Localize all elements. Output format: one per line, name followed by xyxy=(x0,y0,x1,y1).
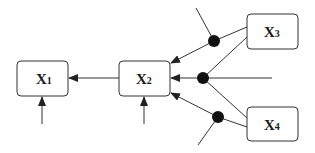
node-x1: X1 xyxy=(17,61,68,96)
node-x4-subscript: 4 xyxy=(275,121,280,132)
diagram-canvas: X1 X2 X3 X4 xyxy=(0,0,315,153)
edge-x4-to-junction-2 xyxy=(203,78,247,118)
node-x4-label: X xyxy=(264,117,275,133)
node-x3: X3 xyxy=(247,14,298,49)
junction-2 xyxy=(197,72,209,84)
edge-junction-3-to-x2 xyxy=(171,93,218,117)
node-x2-subscript: 2 xyxy=(147,75,152,86)
node-x2-label: X xyxy=(136,71,147,87)
node-x4: X4 xyxy=(247,107,298,141)
junction-1 xyxy=(208,35,220,47)
node-x1-subscript: 1 xyxy=(47,75,52,86)
junction-3 xyxy=(212,111,224,123)
edge-junction-1-to-x2 xyxy=(171,41,214,63)
node-x1-label: X xyxy=(36,71,47,87)
node-x2: X2 xyxy=(119,61,170,96)
node-x3-subscript: 3 xyxy=(275,28,280,39)
node-x3-label: X xyxy=(264,24,275,40)
